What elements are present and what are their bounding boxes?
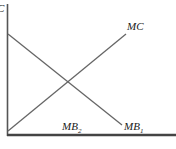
diagram-canvas: [0, 0, 176, 149]
mc-label: MC: [127, 20, 144, 32]
mb1-label: MB1: [124, 120, 143, 135]
mb1-curve: [8, 34, 122, 125]
mb2-label: MB2: [62, 120, 81, 135]
mb2-label-subscript: 2: [78, 127, 82, 135]
y-axis-label: C: [0, 2, 4, 14]
mb1-label-subscript: 1: [140, 127, 144, 135]
mb1-label-main: MB: [124, 120, 140, 132]
mb2-label-main: MB: [62, 120, 78, 132]
